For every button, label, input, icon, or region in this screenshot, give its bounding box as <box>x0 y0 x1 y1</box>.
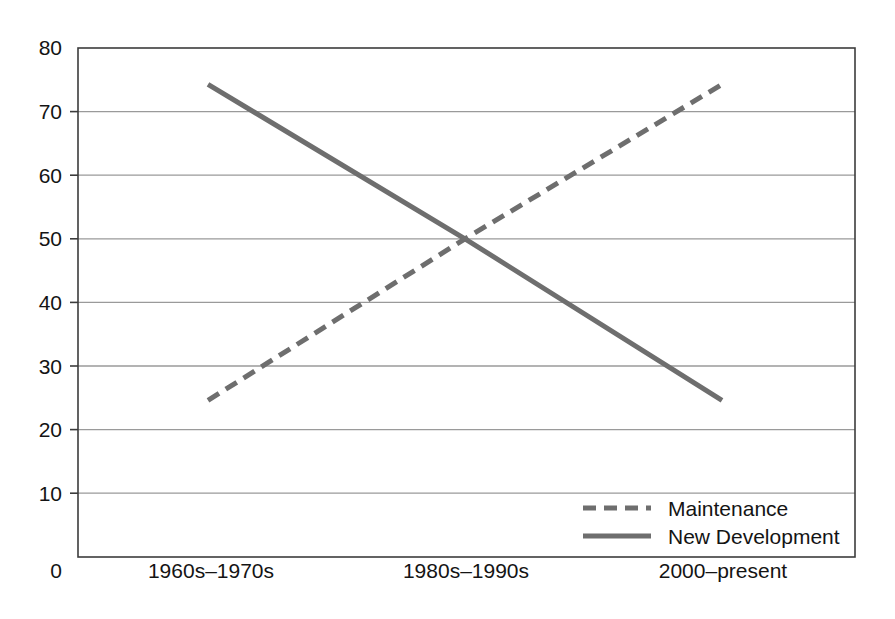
y-axis-labels: 80 70 60 50 40 30 20 10 0 <box>39 36 62 582</box>
y-label-10: 10 <box>39 482 62 505</box>
y-label-80: 80 <box>39 36 62 59</box>
legend-label-maintenance: Maintenance <box>668 497 788 520</box>
x-label-1980s-1990s: 1980s–1990s <box>403 559 529 582</box>
y-label-30: 30 <box>39 355 62 378</box>
chart-canvas: 80 70 60 50 40 30 20 10 0 1960s–1970s 19… <box>0 0 895 619</box>
y-label-60: 60 <box>39 164 62 187</box>
line-chart: 80 70 60 50 40 30 20 10 0 1960s–1970s 19… <box>0 0 895 619</box>
y-label-50: 50 <box>39 227 62 250</box>
y-label-0: 0 <box>50 559 62 582</box>
y-label-40: 40 <box>39 291 62 314</box>
x-label-1960s-1970s: 1960s–1970s <box>148 559 274 582</box>
x-label-2000-present: 2000–present <box>659 559 788 582</box>
legend-label-new-development: New Development <box>668 525 840 548</box>
y-label-20: 20 <box>39 418 62 441</box>
x-axis-labels: 1960s–1970s 1980s–1990s 2000–present <box>148 559 787 582</box>
y-label-70: 70 <box>39 100 62 123</box>
y-tick-marks <box>70 112 78 494</box>
